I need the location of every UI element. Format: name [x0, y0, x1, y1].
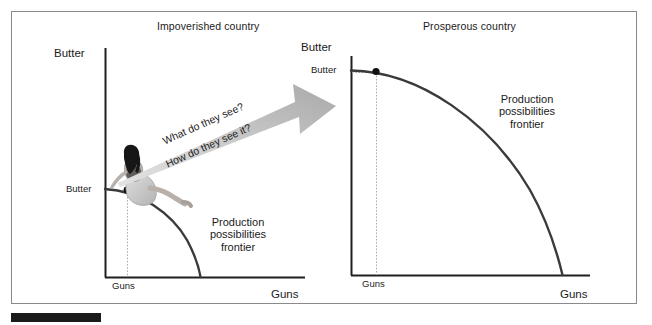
- left-ppf-label-line1: Production: [193, 216, 283, 228]
- right-ppf-label-line3: frontier: [479, 118, 575, 130]
- left-x-axis-title: Guns: [271, 288, 299, 301]
- caption-bar: [11, 313, 101, 322]
- left-y-axis-title: Butter: [54, 47, 85, 60]
- left-ppf-label: Production possibilities frontier: [193, 216, 283, 253]
- left-y-tick-label: Butter: [66, 184, 91, 195]
- left-ppf-label-line3: frontier: [193, 241, 283, 253]
- right-ppf-label: Production possibilities frontier: [479, 93, 575, 130]
- right-x-axis-title: Guns: [560, 288, 588, 301]
- panel-title-prosperous: Prosperous country: [423, 21, 516, 33]
- right-ppf-label-line2: possibilities: [479, 105, 575, 117]
- panel-prosperous-graphics: [351, 56, 590, 276]
- right-ppf-label-line1: Production: [479, 93, 575, 105]
- figure-container: Impoverished country Butter Butter Guns …: [0, 0, 652, 325]
- right-ppf-point: [372, 68, 379, 75]
- right-y-tick-label: Butter: [311, 65, 336, 76]
- panel-title-impoverished: Impoverished country: [157, 21, 259, 33]
- left-ppf-label-line2: possibilities: [193, 228, 283, 240]
- right-x-tick-label: Guns: [362, 279, 385, 290]
- right-y-axis-title: Butter: [301, 41, 332, 54]
- left-x-tick-label: Guns: [112, 281, 135, 292]
